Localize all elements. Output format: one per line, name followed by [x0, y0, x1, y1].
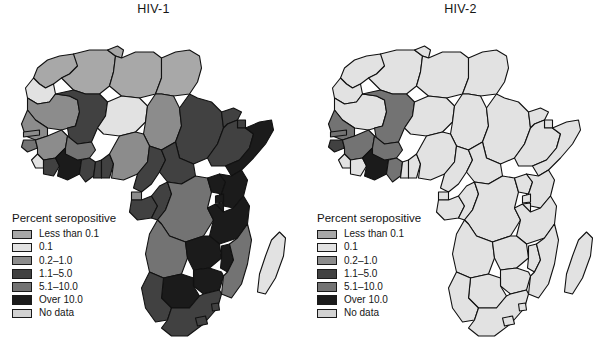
country-egypt[interactable] — [156, 50, 202, 96]
country-madagascar[interactable] — [565, 232, 593, 294]
country-libya[interactable] — [417, 52, 469, 98]
country-equatorial-guinea[interactable] — [132, 192, 142, 200]
legend-row[interactable]: 5.1–10.0 — [317, 280, 467, 293]
legend-label: No data — [344, 308, 379, 318]
figure-two-panel-maps: HIV-1 — [0, 0, 614, 348]
legend-label: Over 10.0 — [39, 295, 83, 305]
legend-swatch — [12, 256, 32, 266]
country-ghana[interactable] — [387, 158, 403, 182]
country-rwanda[interactable] — [216, 194, 224, 203]
legend-swatch — [317, 309, 337, 319]
legend-row[interactable]: 0.1 — [12, 241, 162, 254]
legend-label: Less than 0.1 — [344, 229, 404, 239]
legend-row[interactable]: 0.1 — [317, 241, 467, 254]
panel-title-hiv2: HIV-2 — [307, 2, 614, 16]
legend-row[interactable]: Over 10.0 — [12, 294, 162, 307]
legend-title: Percent seropositive — [12, 212, 162, 224]
country-madagascar[interactable] — [258, 232, 286, 294]
caption-sliver — [0, 341, 614, 348]
legend-title: Percent seropositive — [317, 212, 467, 224]
legend-swatch — [317, 243, 337, 253]
legend-rows: Less than 0.1 0.1 0.2–1.0 1.1–5.0 5.1–10… — [317, 228, 467, 320]
legend-row[interactable]: 5.1–10.0 — [12, 280, 162, 293]
country-djibouti[interactable] — [545, 120, 553, 128]
country-lesotho[interactable] — [503, 316, 515, 326]
country-egypt[interactable] — [463, 50, 509, 96]
legend-row[interactable]: Over 10.0 — [317, 294, 467, 307]
country-swaziland[interactable] — [519, 303, 527, 311]
country-zambia[interactable] — [493, 236, 529, 270]
legend-rows: Less than 0.1 0.1 0.2–1.0 1.1–5.0 5.1–10… — [12, 228, 162, 320]
country-swaziland[interactable] — [212, 303, 220, 311]
legend-row[interactable]: No data — [317, 307, 467, 320]
country-zambia[interactable] — [186, 236, 222, 270]
country-libya[interactable] — [110, 52, 162, 98]
panel-hiv1: HIV-1 — [0, 0, 307, 348]
legend-swatch — [12, 230, 32, 240]
legend-row[interactable]: 1.1–5.0 — [12, 267, 162, 280]
country-lesotho[interactable] — [196, 316, 208, 326]
legend-label: 0.1 — [39, 242, 53, 252]
country-guinea-bissau[interactable] — [329, 140, 345, 152]
legend-label: Over 10.0 — [344, 295, 388, 305]
legend-row[interactable]: No data — [12, 307, 162, 320]
legend-label: No data — [39, 308, 74, 318]
legend-hiv1: Percent seropositive Less than 0.1 0.1 0… — [12, 212, 162, 320]
legend-swatch — [317, 230, 337, 240]
legend-swatch — [317, 269, 337, 279]
legend-label: 0.1 — [344, 242, 358, 252]
country-rwanda[interactable] — [523, 194, 531, 203]
legend-row[interactable]: 1.1–5.0 — [317, 267, 467, 280]
legend-label: Less than 0.1 — [39, 229, 99, 239]
legend-label: 0.2–1.0 — [39, 256, 72, 266]
legend-swatch — [317, 256, 337, 266]
legend-swatch — [317, 295, 337, 305]
legend-swatch — [12, 309, 32, 319]
country-equatorial-guinea[interactable] — [439, 192, 449, 200]
legend-hiv2: Percent seropositive Less than 0.1 0.1 0… — [317, 212, 467, 320]
legend-row[interactable]: Less than 0.1 — [12, 228, 162, 241]
country-djibouti[interactable] — [238, 120, 246, 128]
legend-row[interactable]: 0.2–1.0 — [317, 254, 467, 267]
legend-label: 0.2–1.0 — [344, 256, 377, 266]
legend-swatch — [12, 243, 32, 253]
legend-swatch — [12, 269, 32, 279]
legend-swatch — [12, 282, 32, 292]
panel-hiv2: HIV-2 — [307, 0, 614, 348]
legend-row[interactable]: 0.2–1.0 — [12, 254, 162, 267]
legend-label: 1.1–5.0 — [344, 269, 377, 279]
country-guinea-bissau[interactable] — [22, 140, 38, 152]
panel-title-hiv1: HIV-1 — [0, 2, 307, 16]
country-ghana[interactable] — [80, 158, 96, 182]
legend-row[interactable]: Less than 0.1 — [317, 228, 467, 241]
legend-label: 1.1–5.0 — [39, 269, 72, 279]
legend-swatch — [317, 282, 337, 292]
legend-label: 5.1–10.0 — [39, 282, 78, 292]
legend-label: 5.1–10.0 — [344, 282, 383, 292]
legend-swatch — [12, 295, 32, 305]
